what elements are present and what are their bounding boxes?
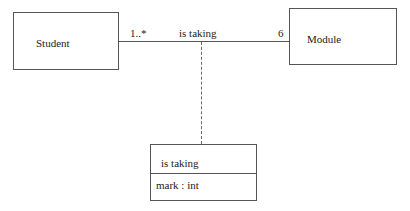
association-line xyxy=(118,41,289,42)
association-class-connector xyxy=(201,42,202,144)
compartment-divider xyxy=(151,173,256,174)
class-student: Student xyxy=(13,12,119,70)
class-student-name: Student xyxy=(36,37,70,49)
class-module-name: Module xyxy=(307,33,341,45)
multiplicity-student: 1..* xyxy=(130,27,147,39)
association-class-name: is taking xyxy=(161,157,199,169)
multiplicity-module: 6 xyxy=(278,27,284,39)
class-module: Module xyxy=(289,8,397,65)
association-class-attribute: mark : int xyxy=(156,179,199,191)
association-name: is taking xyxy=(179,27,217,39)
association-class-box: is taking mark : int xyxy=(150,144,257,201)
